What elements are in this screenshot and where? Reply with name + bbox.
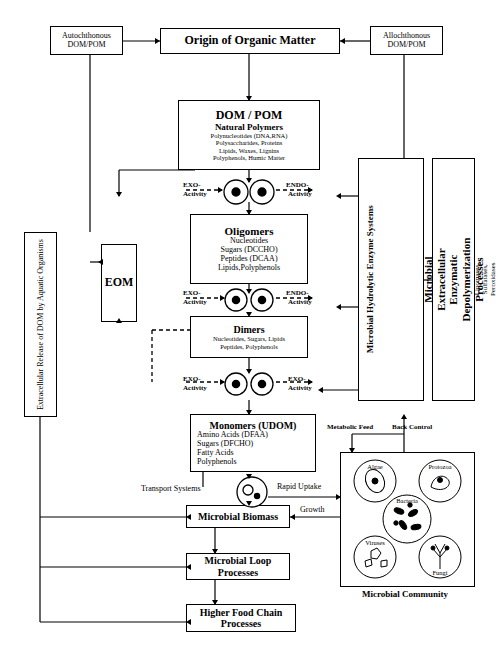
node-oligomers[interactable]: Oligomers Nucleotides Sugars (DCCHO) Pep…	[190, 214, 308, 284]
arrow-dompom-to-circle1	[246, 178, 252, 183]
dom-pom-header: DOM / POM	[216, 109, 283, 122]
dom-pom-item-1: Polysaccharides, Proteins	[216, 139, 282, 146]
arrow-biomass-to-loop	[212, 549, 218, 554]
arrow-origin-to-dompom	[246, 96, 252, 101]
label-endo-activity-1: ENDO-	[286, 182, 309, 189]
community-member-viruses: Viruses	[365, 539, 385, 546]
higher-food-chain-line2: Processes	[221, 618, 261, 629]
label-exo-activity-4: EXO-	[288, 376, 306, 383]
node-autochthonous[interactable]: Autochthonous DOM/POM	[50, 26, 123, 55]
label-exo-activity-4-line2: Activity	[288, 385, 312, 392]
arrow-back-control	[401, 414, 407, 419]
label-back-control: Back Control	[392, 424, 432, 431]
monomers-header: Monomers (UDOM)	[210, 420, 297, 431]
label-exo-activity-2: EXO-	[183, 290, 201, 297]
microbial-community-caption: Microbial Community	[362, 590, 448, 599]
label-growth: Growth	[300, 506, 324, 514]
arrow-exo-4	[308, 379, 313, 385]
node-depolymerization[interactable]: Microbial Extracellular Enzymatic Depoly…	[432, 158, 475, 401]
dimers-item-0: Nucleotides, Sugars, Lipids	[213, 335, 285, 342]
microbial-loop-line1: Microbial Loop	[205, 555, 272, 566]
label-endo-activity-2: ENDO-	[286, 290, 309, 297]
node-eom[interactable]: EOM	[101, 244, 137, 322]
microbial-community-illustration: Algae Protozoa Bacteria Viruses Fungi	[341, 453, 474, 586]
dimers-item-1: Peptides, Polyphenols	[220, 343, 277, 350]
arrow-exo-2	[220, 295, 225, 301]
origin-label: Origin of Organic Matter	[185, 34, 316, 47]
label-exo-activity-1-line2: Activity	[183, 191, 207, 198]
arrow-exo-3	[220, 379, 225, 385]
label-exo-activity-2-line2: Activity	[183, 299, 207, 306]
oligomers-item-3: Lipids,Polyphenols	[218, 264, 280, 273]
node-dimers[interactable]: Dimers Nucleotides, Sugars, Lipids Pepti…	[190, 316, 308, 358]
microbial-biomass-label: Microbial Biomass	[198, 511, 278, 522]
arrow-enzymes-to-circle2	[336, 304, 341, 310]
arrow-autochthonous-to-origin	[155, 38, 160, 44]
arrow-circle3-to-monomers	[246, 410, 252, 415]
arrow-uptake-to-biomass	[246, 501, 252, 506]
arrow-oligomers-to-circle2	[246, 289, 252, 294]
arrow-circle2-to-dimers	[246, 312, 252, 317]
microbial-loop-line2: Processes	[218, 567, 258, 578]
community-member-fungi: Fungi	[432, 569, 447, 576]
node-microbial-community-panel[interactable]: Algae Protozoa Bacteria Viruses Fungi	[340, 452, 475, 587]
higher-food-chain-line1: Higher Food Chain	[200, 607, 283, 618]
arrow-growth-to-biomass	[290, 514, 295, 520]
node-extracellular-release[interactable]: Extracellular Release of DOM by Aquatic …	[24, 232, 57, 417]
community-member-protozoa: Protozoa	[428, 463, 451, 470]
dimers-header: Dimers	[233, 324, 264, 335]
arrow-enzymes-to-circle3	[318, 387, 323, 393]
arrow-return-to-foodchain	[186, 619, 191, 625]
depolymerization-label: Microbial Extracellular Enzymatic Depoly…	[422, 238, 485, 322]
node-microbial-loop[interactable]: Microbial Loop Processes	[186, 553, 290, 580]
label-metabolic-feed: Metabolic Feed	[327, 424, 373, 431]
arrow-exo-1	[218, 187, 223, 193]
node-enzyme-systems[interactable]: Microbial Hydrolytic Enzyme Systems Nucl…	[358, 158, 424, 401]
allochthonous-line2: DOM/POM	[387, 41, 425, 50]
autochthonous-line2: DOM/POM	[67, 41, 105, 50]
arrow-endo-2	[308, 295, 313, 301]
node-higher-food-chain[interactable]: Higher Food Chain Processes	[186, 604, 296, 632]
arrow-allochthonous-to-origin	[340, 38, 345, 44]
label-transport-systems: Transport Systems	[141, 485, 201, 493]
community-member-bacteria: Bacteria	[396, 497, 418, 504]
arrow-circle1-to-oligomers	[246, 210, 252, 215]
arrow-endo-1	[308, 187, 313, 193]
arrow-monomers-to-uptake	[246, 474, 252, 479]
node-monomers[interactable]: Monomers (UDOM) Amino Acids (DFAA) Sugar…	[190, 414, 316, 472]
node-origin-of-organic-matter[interactable]: Origin of Organic Matter	[160, 28, 340, 54]
arrow-return-to-biomass	[186, 514, 191, 520]
label-exo-activity-3-line2: Activity	[183, 385, 207, 392]
arrow-eom-to-release	[98, 259, 103, 265]
arrow-to-eom-top	[116, 192, 122, 197]
label-rapid-uptake: Rapid Uptake	[277, 483, 321, 491]
enzyme-systems-title: Microbial Hydrolytic Enzyme Systems	[364, 206, 374, 354]
extracellular-release-label: Extracellular Release of DOM by Aquatic …	[36, 239, 45, 410]
eom-label: EOM	[105, 276, 134, 289]
arrow-enzymes-to-circle1	[336, 193, 341, 199]
community-member-algae: Algae	[367, 463, 383, 470]
arrow-dimers-to-circle3	[246, 369, 252, 374]
dom-pom-subheader: Natural Polymers	[215, 122, 283, 132]
arrow-loop-to-foodchain	[212, 600, 218, 605]
arrow-metabolic-feed	[349, 448, 355, 453]
dom-pom-item-2: Lipids, Waxes, Lignins	[219, 147, 279, 154]
dom-pom-item-3: Polyphenols, Humic Matter	[213, 154, 285, 161]
diagram-canvas: Autochthonous DOM/POM Allochthonous DOM/…	[0, 0, 499, 650]
node-allochthonous[interactable]: Allochthonous DOM/POM	[370, 26, 443, 55]
node-dom-pom[interactable]: DOM / POM Natural Polymers Polynucleotid…	[178, 100, 320, 170]
arrow-to-eom-bottom	[116, 318, 122, 323]
label-exo-activity-1: EXO-	[183, 182, 201, 189]
dom-pom-item-0: Polynucleotides (DNA,RNA)	[211, 132, 288, 139]
label-exo-activity-3: EXO-	[183, 376, 201, 383]
monomers-item-3: Polyphenols	[197, 458, 237, 467]
arrow-uptake-to-community	[336, 494, 341, 500]
arrow-return-to-loop	[186, 564, 191, 570]
node-microbial-biomass[interactable]: Microbial Biomass	[186, 505, 290, 528]
